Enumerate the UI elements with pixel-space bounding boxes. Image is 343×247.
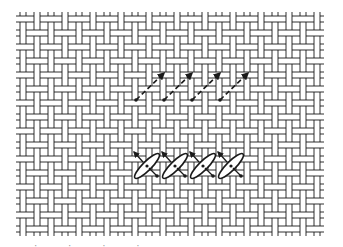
canvas-grid — [16, 12, 324, 236]
upper-stitch-row — [134, 73, 248, 102]
canvas-weave-figure — [0, 0, 343, 247]
caption-text: · · · · — [34, 240, 154, 247]
lower-stitch-row — [132, 151, 246, 181]
stitch-diagram: · · · · — [0, 0, 343, 247]
